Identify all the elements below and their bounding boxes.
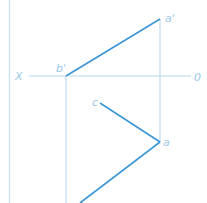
diagram-svg: X 0 b' a' c a bbox=[0, 0, 207, 203]
segment-c-a bbox=[100, 103, 160, 142]
projection-diagram: X 0 b' a' c a bbox=[0, 0, 207, 203]
label-a-prime: a' bbox=[165, 12, 175, 25]
label-x-axis-right: 0 bbox=[194, 71, 201, 84]
label-c: c bbox=[92, 96, 98, 109]
label-x-axis-left: X bbox=[14, 70, 23, 83]
label-a: a bbox=[163, 136, 170, 149]
label-b-prime: b' bbox=[56, 62, 66, 75]
segment-a-b bbox=[80, 142, 160, 203]
segment-b-prime-a-prime bbox=[66, 19, 160, 76]
